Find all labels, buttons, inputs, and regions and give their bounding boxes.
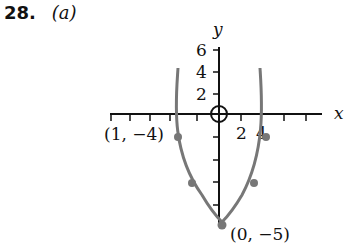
point-label-left: (1, −4) (104, 124, 164, 144)
point-label-vertex: (0, −5) (230, 224, 290, 243)
x-tick-2: 2 (236, 123, 247, 143)
point-left-lower (188, 179, 196, 187)
y-tick-6: 6 (196, 40, 207, 60)
y-tick-4: 4 (196, 62, 207, 82)
data-points (174, 133, 270, 230)
point-vertex (218, 221, 227, 230)
point-right-upper (262, 133, 270, 141)
point-right-lower (250, 179, 258, 187)
y-tick-2: 2 (196, 84, 207, 104)
parabola-chart: x 2 4 y 6 4 2 (1, −4) (0, −5) (0, 0, 354, 243)
point-left-upper (174, 133, 182, 141)
x-axis-label: x (334, 103, 344, 123)
y-axis-label: y (212, 19, 223, 39)
